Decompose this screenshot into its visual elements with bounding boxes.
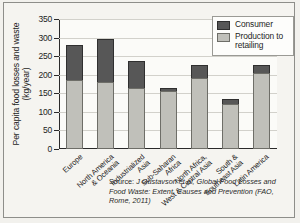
bar-segment-consumer: [128, 61, 145, 89]
legend-swatch-consumer: [217, 21, 230, 30]
figure-frame: Per capita food losses and waste (kg/yea…: [3, 2, 295, 218]
bar-segment-consumer: [97, 39, 114, 82]
y-axis-tick: [54, 112, 59, 113]
gridline: [59, 75, 277, 76]
y-axis-tick: [54, 38, 59, 39]
y-axis-tick: [54, 19, 59, 20]
chart-legend: Consumer Production to retailing: [212, 16, 294, 56]
bar-group: [222, 99, 239, 149]
legend-label-production: Production to retailing: [235, 32, 288, 51]
source-citation: Source: J Gustavson et al, Global Food L…: [109, 177, 284, 205]
bar-segment-production: [253, 73, 270, 149]
bar-segment-consumer: [253, 65, 270, 72]
bar-segment-production: [66, 80, 83, 149]
bar-segment-production: [222, 104, 239, 149]
gridline: [59, 56, 277, 57]
y-axis-tick-label: 150: [38, 88, 52, 98]
bar-group: [66, 45, 83, 149]
bar-group: [160, 88, 177, 149]
bar-segment-production: [97, 82, 114, 149]
y-axis-tick-label: 0: [47, 144, 52, 154]
legend-item-production: Production to retailing: [217, 32, 288, 51]
bar-group: [97, 39, 114, 149]
y-axis-tick-label: 250: [38, 51, 52, 61]
source-prefix: Source:: [109, 177, 136, 186]
y-axis-tick-label: 50: [43, 125, 52, 135]
bar-group: [253, 65, 270, 149]
y-axis-tick-label: 200: [38, 70, 52, 80]
y-axis-tick: [54, 56, 59, 57]
y-axis-tick-label: 300: [38, 33, 52, 43]
y-axis-label: Per capita food losses and waste (kg/yea…: [12, 19, 26, 149]
bar-segment-production: [160, 91, 177, 149]
bar-group: [128, 61, 145, 149]
y-axis-tick-label: 100: [38, 107, 52, 117]
y-axis-tick: [54, 93, 59, 94]
legend-item-consumer: Consumer: [217, 20, 288, 30]
bar-group: [191, 65, 208, 149]
y-axis-tick: [54, 130, 59, 131]
bar-segment-production: [128, 88, 145, 149]
y-axis-tick: [54, 149, 59, 150]
bar-segment-production: [191, 78, 208, 149]
legend-label-consumer: Consumer: [235, 20, 273, 29]
y-axis-tick-label: 350: [38, 14, 52, 24]
bar-segment-consumer: [66, 45, 83, 80]
y-axis-tick: [54, 75, 59, 76]
bar-segment-consumer: [191, 65, 208, 78]
figure-container: Per capita food losses and waste (kg/yea…: [0, 0, 300, 223]
legend-swatch-production: [217, 33, 230, 42]
